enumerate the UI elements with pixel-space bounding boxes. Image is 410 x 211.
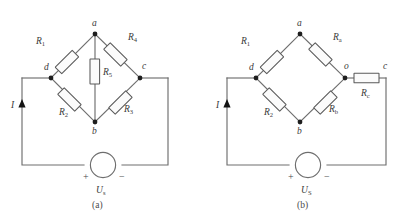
voltage-source-symbol [90, 152, 115, 177]
node-c-dot [138, 76, 143, 81]
node-b-label-b: b [297, 126, 302, 136]
node-d-label: d [44, 62, 49, 72]
node-d-dot [49, 76, 54, 81]
node-o-label-b: o [344, 61, 349, 71]
node-d-dot-b [254, 76, 259, 81]
resistor-R5-label: R5 [102, 67, 113, 78]
current-arrow-icon [18, 99, 25, 108]
node-c-label: c [142, 61, 147, 71]
resistor-Rb-label-b: Rb [328, 104, 339, 115]
panel-b-caption: (b) [297, 200, 308, 211]
node-b-dot [93, 120, 98, 125]
panel-b: R1 Ra R2 Rb Rc [205, 0, 410, 211]
current-label-b: I [215, 100, 220, 110]
resistor-R2-label: R2 [58, 107, 68, 118]
panel-a-caption: (a) [92, 200, 103, 211]
source-plus-sign-b: + [288, 171, 294, 182]
resistor-R4 [104, 43, 127, 66]
current-label: I [10, 100, 15, 110]
current-arrow-icon-b [223, 99, 230, 108]
node-d-label-b: d [249, 62, 254, 72]
resistor-R1-label-b: R1 [240, 36, 250, 47]
node-o-dot-b [343, 76, 348, 81]
resistor-R1 [55, 50, 78, 73]
node-a-label-b: a [297, 18, 302, 28]
resistor-R1-b [260, 50, 283, 73]
circuit-figure: R1 R4 R5 R2 R3 [0, 0, 410, 211]
node-a-dot-b [298, 32, 303, 37]
source-minus-sign-b: − [324, 171, 330, 182]
resistor-R1-label: R1 [35, 36, 45, 47]
resistor-R4-label: R4 [127, 32, 138, 43]
source-label-b: US [301, 185, 312, 196]
wire-right-outer-b [327, 78, 386, 165]
source-plus-sign: + [83, 171, 89, 182]
resistor-Rc-label-b: Rc [360, 88, 370, 99]
node-b-dot-b [298, 120, 303, 125]
node-b-label: b [92, 126, 97, 136]
node-a-label: a [92, 18, 97, 28]
resistor-Ra-label-b: Ra [332, 32, 342, 43]
resistor-R2-label-b: R2 [263, 107, 273, 118]
voltage-source-symbol-b [295, 152, 320, 177]
panel-a: R1 R4 R5 R2 R3 [0, 0, 205, 211]
wire-left-outer [22, 78, 84, 165]
resistor-R5 [90, 59, 100, 84]
wire-left-outer-b [227, 78, 289, 165]
wire-right-outer [122, 78, 168, 165]
source-minus-sign: − [119, 171, 125, 182]
resistor-R3-label: R3 [123, 104, 134, 115]
node-c-label-b: c [383, 61, 388, 71]
source-label: Us [96, 185, 106, 196]
resistor-Ra-b [309, 43, 332, 66]
node-a-dot [93, 32, 98, 37]
resistor-Rc-b [354, 73, 379, 83]
